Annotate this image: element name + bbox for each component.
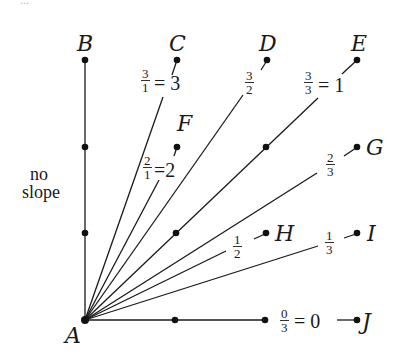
denominator: 3 xyxy=(305,82,312,97)
label-E: E xyxy=(350,31,367,56)
numerator: 1 xyxy=(326,228,333,243)
point-B-dot xyxy=(82,57,89,64)
line-AE xyxy=(85,98,318,320)
point-C-dot xyxy=(174,57,181,64)
denominator: 3 xyxy=(326,242,333,257)
label-H: H xyxy=(274,221,295,246)
slope-label-AJ: 0 3 = 0 xyxy=(280,306,320,335)
numerator: 3 xyxy=(305,68,312,83)
equals-value: = 1 xyxy=(318,74,344,96)
point-G-dot xyxy=(354,144,361,151)
slope-label-AI: 1 3 xyxy=(325,228,334,257)
point-A-dot xyxy=(81,316,89,324)
point-J-dot xyxy=(354,317,361,324)
label-B: B xyxy=(76,31,93,56)
slope-label-AF: 2 1 =2 xyxy=(143,153,175,182)
label-J: J xyxy=(358,309,372,334)
numerator: 3 xyxy=(246,68,253,83)
label-I: I xyxy=(366,221,377,246)
slope-label-AE: 3 3 = 1 xyxy=(304,68,344,97)
point-F-dot xyxy=(174,144,181,151)
stub-G xyxy=(344,148,356,156)
point-H-dot xyxy=(263,230,270,237)
numerator: 2 xyxy=(144,153,151,168)
numerator: 1 xyxy=(234,232,241,247)
slope-label-AG: 2 3 xyxy=(326,150,335,179)
slope-label-AC: 3 1 = 3 xyxy=(141,66,180,95)
no-slope-label-line2: slope xyxy=(22,182,60,202)
stub-F xyxy=(174,150,176,156)
label-G: G xyxy=(366,135,384,160)
slope-label-AD: 3 2 xyxy=(245,68,254,97)
denominator: 3 xyxy=(281,320,288,335)
equals-value: = 0 xyxy=(294,310,320,332)
grid-dot xyxy=(82,144,89,151)
no-slope-label-line1: no xyxy=(30,164,48,184)
denominator: 2 xyxy=(234,246,241,261)
cropped-text-fragment: ... xyxy=(20,0,29,7)
grid-dot xyxy=(173,230,180,237)
line-AC xyxy=(85,97,163,320)
denominator: 3 xyxy=(327,164,334,179)
stub-D xyxy=(261,62,266,70)
point-D-dot xyxy=(264,57,271,64)
grid-dot xyxy=(82,230,89,237)
label-A: A xyxy=(63,323,81,348)
grid-dot xyxy=(263,144,270,151)
label-F: F xyxy=(176,111,193,136)
slope-diagram: ... A B C D E F G H I J no slo xyxy=(0,0,401,361)
equals-value: =2 xyxy=(154,159,175,181)
slope-label-AH: 1 2 xyxy=(233,232,242,261)
line-AD xyxy=(85,95,243,320)
denominator: 1 xyxy=(144,167,151,182)
numerator: 0 xyxy=(281,306,288,321)
label-D: D xyxy=(258,31,277,56)
denominator: 1 xyxy=(142,80,149,95)
point-I-dot xyxy=(354,230,361,237)
label-C: C xyxy=(169,31,186,56)
grid-dot xyxy=(262,317,269,324)
line-AG xyxy=(85,173,317,320)
numerator: 2 xyxy=(327,150,334,165)
denominator: 2 xyxy=(246,82,253,97)
grid-dot xyxy=(172,317,179,324)
stub-E xyxy=(342,61,356,74)
equals-value: = 3 xyxy=(154,72,180,94)
numerator: 3 xyxy=(142,66,149,81)
point-E-dot xyxy=(354,57,361,64)
line-AF xyxy=(85,180,159,320)
